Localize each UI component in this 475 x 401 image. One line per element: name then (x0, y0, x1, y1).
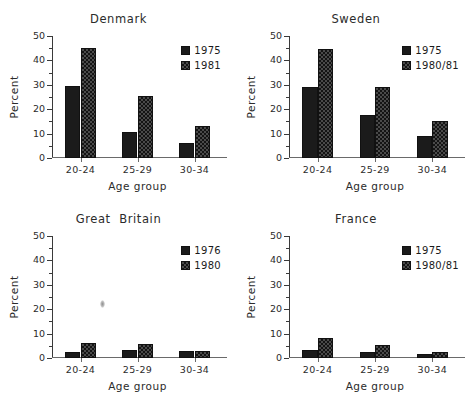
y-axis-title-text: Percent (7, 275, 19, 318)
x-axis-tick-label: 30-34 (418, 365, 448, 375)
y-axis-line (289, 36, 290, 158)
y-axis-title: Percent (243, 236, 257, 358)
y-axis-minor-tick (286, 346, 289, 347)
panel-title: Denmark (0, 12, 237, 26)
legend-label: 1980/81 (415, 259, 459, 272)
bar-france-30-34-series1 (432, 352, 447, 358)
x-axis-tick (81, 358, 82, 362)
x-axis-tick (432, 158, 433, 162)
y-axis-title: Percent (6, 236, 20, 358)
y-axis-tick (47, 334, 52, 335)
y-axis-minor-tick (49, 48, 52, 49)
y-axis-title-text: Percent (244, 75, 256, 118)
y-axis-tick-label: 20 (270, 304, 282, 314)
y-axis-minor-tick (286, 321, 289, 322)
legend-swatch-icon (181, 246, 190, 255)
y-axis-title-text: Percent (244, 275, 256, 318)
y-axis-minor-tick (49, 346, 52, 347)
y-axis-tick-label: 40 (33, 56, 45, 66)
y-axis-tick (284, 158, 289, 159)
x-axis-tick-label: 30-34 (180, 365, 210, 375)
bar-france-25-29-series0 (360, 352, 375, 358)
y-axis-tick (284, 285, 289, 286)
chart-panel-great-britain: Great BritainPercentAge group01020304050… (0, 200, 237, 401)
x-axis-title: Age group (289, 380, 461, 392)
bar-great-britain-30-34-series0 (179, 351, 194, 358)
y-axis-tick (47, 60, 52, 61)
y-axis-minor-tick (286, 273, 289, 274)
y-axis-tick-label: 0 (276, 353, 282, 363)
y-axis-minor-tick (286, 73, 289, 74)
y-axis-tick-label: 30 (270, 280, 282, 290)
y-axis-minor-tick (49, 121, 52, 122)
x-axis-tick-label: 30-34 (418, 165, 448, 175)
y-axis-tick-label: 50 (33, 31, 45, 41)
y-axis-tick (47, 358, 52, 359)
bar-great-britain-30-34-series1 (195, 351, 210, 358)
x-axis-title: Age group (289, 180, 461, 192)
y-axis-tick-label: 20 (270, 104, 282, 114)
y-axis-tick-label: 30 (33, 80, 45, 90)
legend-label: 1981 (194, 59, 221, 72)
y-axis-tick (47, 260, 52, 261)
y-axis-tick (284, 236, 289, 237)
bar-great-britain-20-24-series1 (81, 343, 96, 358)
x-axis-tick (138, 358, 139, 362)
y-axis-tick (47, 85, 52, 86)
y-axis-tick (284, 85, 289, 86)
y-axis-tick (284, 134, 289, 135)
x-axis-tick-label: 25-29 (123, 365, 153, 375)
y-axis-line (52, 236, 53, 358)
x-axis-tick (138, 158, 139, 162)
y-axis-tick (47, 285, 52, 286)
legend-swatch-icon (181, 46, 190, 55)
y-axis-tick-label: 20 (33, 304, 45, 314)
legend-label: 1975 (415, 44, 442, 57)
chart-panel-denmark: DenmarkPercentAge group0102030405020-242… (0, 0, 237, 200)
y-axis-tick (47, 109, 52, 110)
bar-great-britain-20-24-series0 (65, 352, 80, 358)
y-axis-title-text: Percent (7, 75, 19, 118)
y-axis-tick (47, 158, 52, 159)
x-axis-tick-label: 20-24 (66, 365, 96, 375)
y-axis-tick-label: 40 (33, 256, 45, 266)
legend-label: 1980/81 (415, 59, 459, 72)
panel-title: France (237, 212, 475, 226)
legend-label: 1975 (194, 44, 221, 57)
bar-france-20-24-series1 (318, 338, 333, 358)
y-axis-minor-tick (286, 248, 289, 249)
legend: 19751980/81 (402, 44, 459, 74)
chart-figure: DenmarkPercentAge group0102030405020-242… (0, 0, 475, 401)
y-axis-tick-label: 0 (39, 353, 45, 363)
x-axis-tick-label: 20-24 (303, 165, 333, 175)
legend-swatch-icon (402, 261, 411, 270)
x-axis-tick (375, 158, 376, 162)
legend-label: 1980 (194, 259, 221, 272)
y-axis-tick-label: 10 (33, 129, 45, 139)
x-axis-tick-label: 25-29 (123, 165, 153, 175)
y-axis-minor-tick (49, 73, 52, 74)
legend-swatch-icon (402, 246, 411, 255)
y-axis-tick-label: 30 (33, 280, 45, 290)
bar-denmark-20-24-series1 (81, 48, 96, 158)
y-axis-tick-label: 50 (270, 31, 282, 41)
y-axis-minor-tick (286, 48, 289, 49)
legend-item: 1975 (402, 44, 459, 57)
y-axis-line (52, 36, 53, 158)
legend-label: 1975 (415, 244, 442, 257)
y-axis-tick (284, 334, 289, 335)
bar-denmark-25-29-series0 (122, 132, 137, 158)
x-axis-tick (81, 158, 82, 162)
x-axis-tick (195, 358, 196, 362)
bar-great-britain-25-29-series1 (138, 344, 153, 358)
panel-title: Sweden (237, 12, 475, 26)
x-axis-title: Age group (52, 380, 223, 392)
y-axis-tick-label: 10 (270, 129, 282, 139)
x-axis-tick-label: 20-24 (303, 365, 333, 375)
legend: 19751980/81 (402, 244, 459, 274)
y-axis-tick (284, 358, 289, 359)
legend-swatch-icon (181, 261, 190, 270)
y-axis-tick (284, 109, 289, 110)
bar-france-30-34-series0 (417, 354, 432, 358)
bar-great-britain-25-29-series0 (122, 350, 137, 358)
